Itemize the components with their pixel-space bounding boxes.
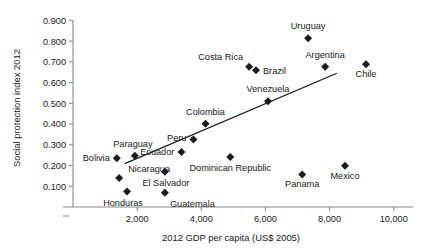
- data-point-label: Brazil: [263, 66, 286, 76]
- x-tick-label: 10,000: [380, 214, 408, 224]
- data-point-label: Dominican Republic: [189, 163, 271, 173]
- data-points: UruguayArgentinaChileCosta RicaBrazilVen…: [83, 21, 377, 208]
- data-point-marker: [226, 153, 234, 161]
- data-point-marker: [252, 66, 260, 74]
- data-point-label: Mexico: [330, 171, 359, 181]
- x-axis: 2,0004,0006,0008,00010,000: [63, 207, 413, 224]
- x-axis-title: 2012 GDP per capita (US$ 2005): [162, 232, 300, 243]
- data-point-marker: [177, 148, 185, 156]
- data-point-marker: [321, 63, 329, 71]
- data-point-label: Panama: [285, 179, 320, 189]
- scatter-chart-figure: 0.1000.2000.3000.4000.5000.6000.7000.800…: [0, 0, 430, 249]
- y-tick-label: 0.800: [43, 37, 66, 47]
- data-point-label: Guatemala: [170, 199, 216, 209]
- data-point-marker: [245, 63, 253, 71]
- y-tick-label: 0.400: [43, 119, 66, 129]
- data-point-label: Nicaragua: [128, 164, 171, 174]
- data-point-label: Argentina: [305, 50, 345, 60]
- data-point-marker: [362, 60, 370, 68]
- data-point-label: Bolivia: [83, 153, 111, 163]
- data-point-label: Honduras: [103, 198, 143, 208]
- data-point-marker: [161, 189, 169, 197]
- y-tick-label: 0.100: [43, 182, 66, 192]
- data-point-label: El Salvador: [142, 178, 189, 188]
- y-tick-label: 0.200: [43, 161, 66, 171]
- y-tick-label: 0.300: [43, 140, 66, 150]
- y-tick-label: 0.600: [43, 78, 66, 88]
- y-tick-label: 0.500: [43, 99, 66, 109]
- data-point-label: Uruguay: [291, 21, 326, 31]
- data-point-marker: [298, 170, 306, 178]
- x-tick-label: 4,000: [190, 214, 213, 224]
- data-point-marker: [341, 162, 349, 170]
- x-tick-label: 6,000: [254, 214, 277, 224]
- data-point-label: Paraguay: [113, 139, 153, 149]
- y-axis-title: Social protection index 2012: [11, 49, 22, 167]
- y-tick-label: 0.700: [43, 57, 66, 67]
- data-point-marker: [113, 154, 121, 162]
- data-point-marker: [115, 174, 123, 182]
- scatter-plot-canvas: 0.1000.2000.3000.4000.5000.6000.7000.800…: [0, 0, 430, 249]
- data-point-label: Chile: [356, 69, 377, 79]
- data-point-marker: [304, 34, 312, 42]
- x-tick-label: 8,000: [318, 214, 341, 224]
- data-point-label: Venezuela: [247, 84, 291, 94]
- data-point-label: Peru: [167, 133, 186, 143]
- data-point-label: Costa Rica: [198, 52, 244, 62]
- data-point-marker: [201, 120, 209, 128]
- data-point-marker: [189, 136, 197, 144]
- data-point-label: Colombia: [186, 107, 226, 117]
- x-tick-label: 2,000: [126, 214, 149, 224]
- data-point-marker: [123, 187, 131, 195]
- y-tick-label: 0.900: [43, 16, 66, 26]
- y-axis: 0.1000.2000.3000.4000.5000.6000.7000.800…: [43, 16, 73, 207]
